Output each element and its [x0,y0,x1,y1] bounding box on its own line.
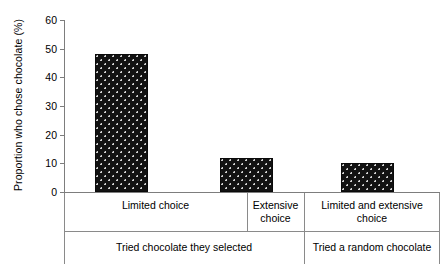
category-grid-right-border [439,193,440,264]
y-tick-label: 50 [27,41,57,57]
y-tick-mark [60,106,64,107]
group-label-tried-selected: Tried chocolate they selected [64,231,304,264]
bar-extensive-choice [220,158,273,192]
y-axis-title: Proportion who chose chocolate (%) [10,5,26,205]
y-tick-label: 20 [27,127,57,143]
y-axis-line [64,20,65,192]
category-grid-left-border [64,193,65,264]
y-tick-label: 30 [27,98,57,114]
y-tick-label: 40 [27,69,57,85]
category-separator-2 [304,193,305,264]
y-tick-mark [60,20,64,21]
category-label-limited-choice: Limited choice [64,193,247,231]
bar-limited-and-extensive-choice [341,163,394,192]
y-tick-label: 0 [27,184,57,200]
y-tick-mark [60,49,64,50]
category-label-limited-and-extensive-choice: Limited and extensive choice [304,193,440,231]
bar-limited-choice [95,54,148,192]
category-tier-divider [64,231,440,232]
y-tick-mark [60,135,64,136]
group-label-tried-random: Tried a random chocolate [304,231,440,264]
y-tick-mark [60,77,64,78]
bar-chart-figure: Proportion who chose chocolate (%) 0 10 … [0,0,447,264]
category-label-extensive-choice: Extensive choice [247,193,304,231]
category-label-grid: Limited choice Extensive choice Limited … [64,193,440,264]
y-tick-label: 10 [27,155,57,171]
plot-area: 0 10 20 30 40 50 60 [64,20,440,192]
y-tick-label: 60 [27,12,57,28]
y-tick-mark [60,163,64,164]
category-separator-1 [247,193,248,231]
